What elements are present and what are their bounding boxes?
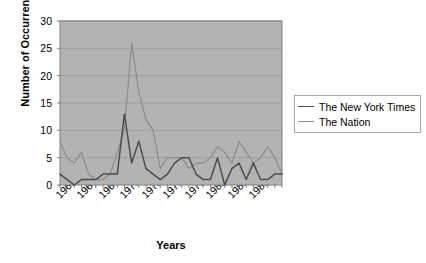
legend-label-nyt: The New York Times: [319, 101, 415, 113]
legend-swatch-nyt: [298, 106, 314, 107]
legend-label-nation: The Nation: [319, 116, 370, 128]
chart-legend: The New York Times The Nation: [294, 95, 421, 133]
legend-item: The Nation: [298, 114, 415, 129]
chart-figure: Number of Occurrences Years 051015202530…: [0, 0, 426, 263]
legend-swatch-nation: [298, 121, 314, 122]
legend-item: The New York Times: [298, 99, 415, 114]
